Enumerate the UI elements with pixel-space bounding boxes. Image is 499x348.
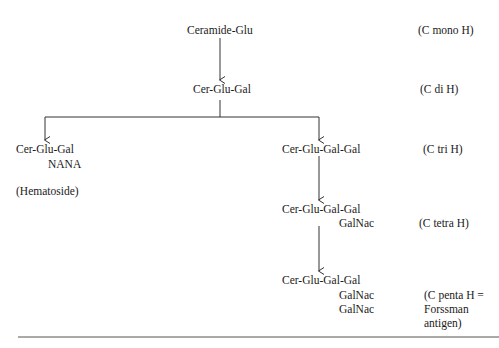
node-penta-main: Cer-Glu-Gal-Gal: [282, 274, 360, 287]
label-penta-line1: (C penta H =: [424, 289, 484, 302]
node-hematoside-name: (Hematoside): [16, 185, 79, 198]
label-penta-line2: Forssman: [424, 303, 469, 316]
node-tri: Cer-Glu-Gal-Gal: [282, 143, 360, 156]
label-penta-line3: antigen): [424, 317, 462, 330]
glycolipid-pathway-diagram: Ceramide-Glu (C mono H) Cer-Glu-Gal (C d…: [0, 0, 499, 348]
node-hematoside-sub: NANA: [48, 158, 81, 171]
node-tetra-sub: GalNac: [339, 217, 374, 230]
label-mono: (C mono H): [418, 24, 474, 37]
label-tri: (C tri H): [423, 143, 463, 156]
label-tetra: (C tetra H): [419, 217, 469, 230]
node-penta-sub1: GalNac: [339, 289, 374, 302]
label-di: (C di H): [420, 83, 458, 96]
node-penta-sub2: GalNac: [339, 303, 374, 316]
node-cer-glu-gal: Cer-Glu-Gal: [193, 83, 251, 96]
node-hematoside-main: Cer-Glu-Gal: [16, 143, 74, 156]
node-ceramide-glu: Ceramide-Glu: [187, 24, 253, 37]
node-tetra-main: Cer-Glu-Gal-Gal: [282, 203, 360, 216]
